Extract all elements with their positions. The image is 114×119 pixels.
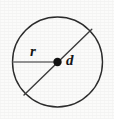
circle-diagram-canvas [0, 0, 114, 119]
circle-diagram-figure: r d [0, 0, 114, 119]
center-dot [53, 58, 61, 66]
diameter-label: d [66, 53, 74, 68]
radius-label: r [30, 44, 36, 59]
